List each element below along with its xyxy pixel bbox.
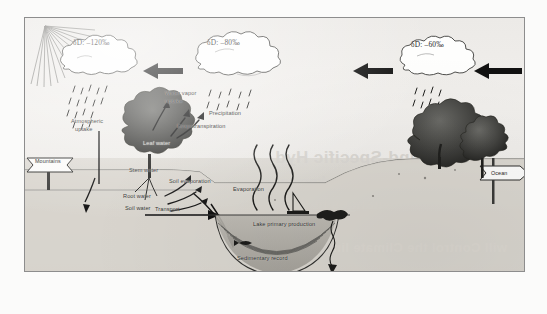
- rain-middle: [207, 89, 251, 110]
- leaf-water-label: Leaf water: [143, 140, 170, 147]
- ocean-sign-label: Ocean: [491, 170, 507, 177]
- transport-arrow-1: [353, 63, 393, 79]
- mountains-sign-label: Mountains: [35, 158, 61, 165]
- sedimentary-record-label: Sedimentary record: [237, 255, 288, 262]
- cloud-middle-delta-label: δD: –80‰: [207, 38, 240, 47]
- water-vapor-uptake-label-l2: uptake: [165, 98, 182, 105]
- precipitation-label: Precipitation: [209, 110, 241, 117]
- atmospheric-uptake-label-l2: uptake: [75, 126, 92, 133]
- figure-frame: Compound-Specific Hyd ies of Biomarkers …: [24, 17, 525, 272]
- cloud-right-delta-label: δD: –60‰: [411, 40, 444, 49]
- soil-evaporation-label: Soil evaporation: [169, 178, 211, 185]
- figure-page: Compound-Specific Hyd ies of Biomarkers …: [0, 0, 547, 314]
- cloud-left-delta-label: δD: –120‰: [73, 38, 110, 47]
- transport-label: Transport: [155, 206, 180, 213]
- stem-water-label: Stem water: [129, 167, 158, 174]
- atmospheric-uptake-label-l1: Atmospheric: [71, 118, 103, 125]
- transport-arrow-3: [474, 63, 522, 79]
- lake-primary-production-label: Lake primary production: [253, 221, 315, 228]
- evapotranspiration-label: Evapotranspiration: [177, 123, 225, 130]
- evaporation-label: Evaporation: [233, 186, 264, 193]
- scene-svg: [25, 18, 524, 271]
- soil-water-label: Soil water: [125, 205, 151, 212]
- root-water-label: Root water: [123, 193, 151, 200]
- water-vapor-uptake-label-l1: Water vapor: [165, 90, 196, 97]
- transport-arrow-2: [143, 63, 183, 79]
